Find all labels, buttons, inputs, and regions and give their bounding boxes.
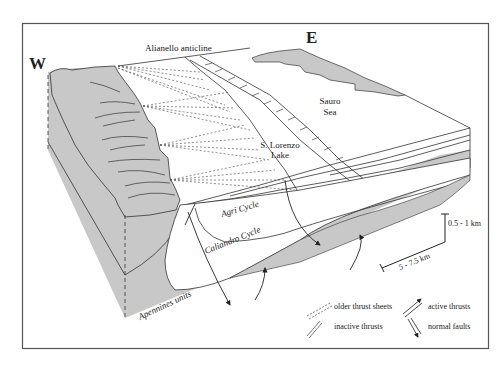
west-label: W xyxy=(29,54,46,73)
lake-label-line1: S. Lorenzo xyxy=(260,140,300,150)
legend-symbol-normal-faults xyxy=(408,318,421,337)
legend: older thrust sheets active thrusts inact… xyxy=(307,299,470,338)
legend-symbol-inactive-thrusts xyxy=(307,321,322,338)
legend-label-inactive-thrusts: inactive thrusts xyxy=(334,322,383,331)
far-shore-relief xyxy=(252,49,405,96)
anticline-label: Alianello anticline xyxy=(145,43,212,53)
sea-label-line2: Sea xyxy=(324,107,337,117)
legend-label-normal-faults: normal faults xyxy=(428,322,470,331)
east-label: E xyxy=(306,28,317,47)
block-diagram: W E Alianello anticline Sauro Sea S. Lor… xyxy=(0,0,499,366)
legend-symbol-older-thrust-sheets xyxy=(307,303,332,319)
lake-label-line2: Lake xyxy=(271,150,289,160)
basin-fill xyxy=(165,158,470,290)
legend-label-older-thrust-sheets: older thrust sheets xyxy=(334,302,392,311)
legend-symbol-active-thrusts xyxy=(403,299,422,317)
legend-label-active-thrusts: active thrusts xyxy=(428,302,470,311)
sea-label-line1: Sauro xyxy=(320,96,341,106)
vertical-scale-label: 0.5 - 1 km xyxy=(448,219,482,228)
